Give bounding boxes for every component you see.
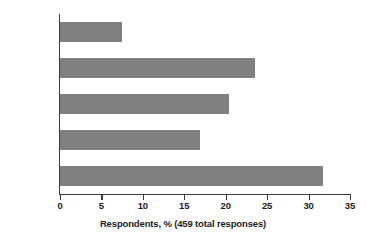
x-axis-title: Respondents, % (459 total responses) [0,218,366,229]
x-tick-label-0: 0 [57,200,62,211]
category-label-slot: 1 [0,14,60,50]
bar-4 [60,166,323,186]
category-label-slot: 2 [0,50,60,86]
bar-band: 5 or more [60,158,350,194]
x-tick-label-1: 5 [99,200,104,211]
x-tick-label-6: 30 [303,200,313,211]
x-tick-label-3: 15 [179,200,189,211]
bar-band: 1 [60,14,350,50]
bar-band: 2 [60,50,350,86]
category-label-slot: 3 [0,86,60,122]
category-label-slot: 4 [0,122,60,158]
bar-0 [60,22,122,42]
x-tick-label-2: 10 [138,200,148,211]
x-axis-line [59,194,351,195]
bar-band: 3 [60,86,350,122]
x-tick-label-7: 35 [345,200,355,211]
category-label-slot: 5 or more [0,158,60,194]
bar-band: 4 [60,122,350,158]
bar-1 [60,58,255,78]
x-tick-label-5: 25 [262,200,272,211]
x-tick-label-4: 20 [221,200,231,211]
plot-area: 1 2 3 4 5 or more [60,14,350,194]
bar-2 [60,94,229,114]
bar-3 [60,130,200,150]
bar-chart: 1 2 3 4 5 or more [0,0,366,240]
